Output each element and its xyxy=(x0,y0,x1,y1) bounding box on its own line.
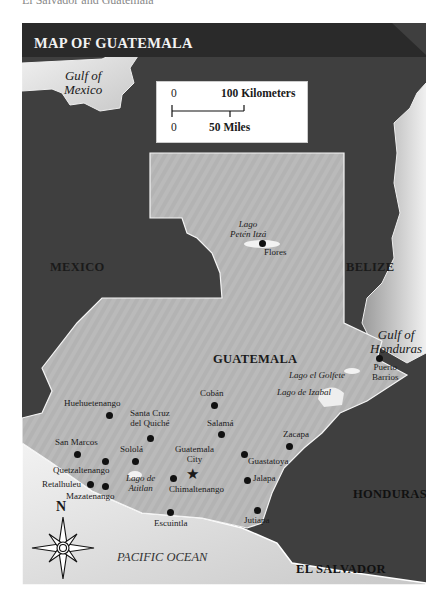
scale-mi-label: 50 Miles xyxy=(209,121,250,134)
scale-km-label: 100 Kilometers xyxy=(221,87,295,100)
city-dot-flores xyxy=(259,240,266,247)
label-jalapa: Jalapa xyxy=(253,474,276,484)
map-title: MAP OF GUATEMALA xyxy=(34,35,193,52)
city-dot-san-marcos xyxy=(74,451,81,458)
label-flores: Flores xyxy=(264,248,287,258)
label-salama: Salamá xyxy=(207,419,234,429)
label-retalhuleu: Retalhuleu xyxy=(42,480,81,490)
label-solola: Sololá xyxy=(120,445,143,455)
label-chimaltenango: Chimaltenango xyxy=(169,485,224,495)
label-quetzaltenango: Quetzaltenango xyxy=(53,466,109,476)
label-guatemala-city: Guatemala City xyxy=(175,445,214,465)
label-lago-de-atitlan: Lago de Atitlan xyxy=(126,474,155,494)
label-huehuetenango: Huehuetenango xyxy=(64,399,120,409)
city-dot-puerto-barrios xyxy=(376,355,383,362)
label-belize: BELIZE xyxy=(346,261,394,275)
city-dot-guastatoya xyxy=(241,451,248,458)
label-pacific-ocean: PACIFIC OCEAN xyxy=(117,551,207,565)
city-dot-solola xyxy=(132,458,139,465)
label-lago-peten-itza: Lago Petén Itzá xyxy=(230,220,266,240)
label-santa-cruz-del-quiche: Santa Cruz del Quiché xyxy=(130,409,170,429)
scale-km-zero: 0 xyxy=(171,87,177,100)
compass-north-label: N xyxy=(56,499,66,514)
map-of-guatemala: MAP OF GUATEMALA 0 100 Kilometers 0 50 M… xyxy=(22,23,426,585)
label-guatemala: GUATEMALA xyxy=(213,353,297,367)
city-dot-mazatenango xyxy=(102,483,109,490)
label-mazatenango: Mazatenango xyxy=(66,492,114,502)
label-gulf-of-mexico: Gulf of Mexico xyxy=(64,69,102,98)
label-zacapa: Zacapa xyxy=(283,430,309,440)
scale-bar: 0 100 Kilometers 0 50 Miles xyxy=(156,81,308,143)
city-dot-chimaltenango xyxy=(170,475,177,482)
label-lago-el-golfete: Lago el Golfete xyxy=(289,371,345,381)
compass-rose-icon xyxy=(30,515,96,581)
city-dot-zacapa xyxy=(286,443,293,450)
label-jutiapa: Jutiapa xyxy=(244,516,270,526)
label-san-marcos: San Marcos xyxy=(55,438,98,448)
city-dot-retalhuleu xyxy=(87,481,94,488)
page-caption: El Salvador and Guatemala xyxy=(22,0,154,8)
city-dot-jalapa xyxy=(244,477,251,484)
label-lago-de-izabal: Lago de Izabal xyxy=(277,388,331,398)
city-dot-escuintla xyxy=(167,509,174,516)
label-el-salvador: EL SALVADOR xyxy=(296,563,386,577)
label-coban: Cobán xyxy=(200,389,224,399)
city-dot-huehuetenango xyxy=(106,412,113,419)
city-dot-salama xyxy=(218,431,225,438)
city-dot-santa-cruz xyxy=(147,435,154,442)
capital-star-icon: ★ xyxy=(186,466,199,483)
city-dot-jutiapa xyxy=(254,507,261,514)
label-honduras: HONDURAS xyxy=(353,488,426,502)
city-dot-quetzaltenango xyxy=(102,458,109,465)
label-guastatoya: Guastatoya xyxy=(248,457,289,467)
scale-mi-zero: 0 xyxy=(171,121,177,134)
label-escuintla: Escuintla xyxy=(154,519,188,529)
label-puerto-barrios: Puerto Barrios xyxy=(372,363,399,383)
label-mexico: MEXICO xyxy=(50,261,105,275)
scale-line-icon xyxy=(171,103,251,119)
city-dot-coban xyxy=(211,402,218,409)
label-gulf-of-honduras: Gulf of Honduras xyxy=(370,328,422,357)
